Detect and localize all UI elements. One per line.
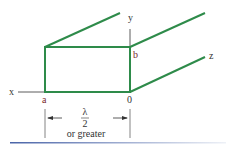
width-note: or greater bbox=[67, 128, 106, 139]
arrowhead-right-icon bbox=[122, 116, 128, 120]
x-axis-label: x bbox=[9, 86, 14, 97]
waveguide-bottom-right-edge bbox=[130, 57, 205, 92]
z-axis-label: z bbox=[209, 50, 214, 61]
corner-a-label: a bbox=[42, 94, 47, 105]
lambda-symbol: λ bbox=[83, 106, 88, 117]
waveguide-top-right-edge bbox=[130, 13, 205, 47]
bottom-rule bbox=[10, 142, 226, 144]
waveguide-front-face bbox=[45, 47, 130, 92]
origin-label: 0 bbox=[127, 94, 132, 105]
waveguide-diagram: x y z b a 0 λ 2 or greater bbox=[0, 0, 226, 153]
corner-b-label: b bbox=[133, 49, 138, 60]
arrowhead-left-icon bbox=[47, 116, 53, 120]
y-axis-label: y bbox=[128, 12, 133, 23]
waveguide-top-left-edge bbox=[45, 13, 120, 47]
